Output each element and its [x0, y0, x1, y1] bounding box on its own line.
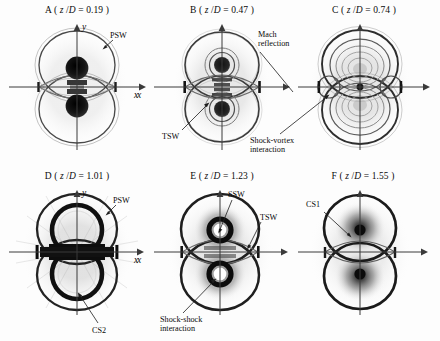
panel-c-leader-lines — [250, 4, 436, 164]
panel-e-leader-lines — [152, 170, 292, 338]
panel-d: D ( z /D = 1.01 ) — [6, 170, 148, 338]
panel-f: F ( z /D = 1.55 ) — [296, 170, 436, 338]
panel-d-leader-lines — [6, 170, 148, 338]
panel-e: E ( z /D = 1.23 ) — [152, 170, 292, 338]
figure-shock-cross-sections: A ( z /D = 0.19 ) — [0, 0, 440, 341]
panel-f-leader-lines — [296, 170, 436, 338]
panel-e-x-label: x — [134, 255, 138, 265]
panel-a-leader-lines — [6, 4, 148, 164]
panel-b-x-label: x — [134, 90, 138, 100]
panel-a: A ( z /D = 0.19 ) — [6, 4, 148, 164]
panel-c: C ( z /D = 0.74 ) — [296, 4, 436, 164]
